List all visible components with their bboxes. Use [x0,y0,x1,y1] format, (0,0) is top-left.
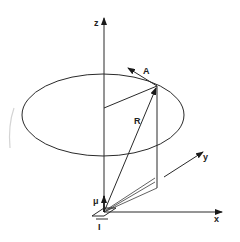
a-vector-label: A [143,66,150,76]
z-axis-label: z [94,18,99,28]
projection-foot-line-2 [106,178,155,210]
x-axis-label: x [214,214,219,224]
current-label: I [98,222,101,232]
current-loop-ellipse [22,74,184,156]
r-vector-label: R [134,116,141,126]
scan-artifact [10,108,15,148]
y-axis [164,152,203,177]
loop-field-diagram: z x y R A μ I [0,0,240,242]
r-vector [104,88,156,212]
mu-vector-label: μ [93,196,99,206]
y-axis-label: y [203,152,208,162]
